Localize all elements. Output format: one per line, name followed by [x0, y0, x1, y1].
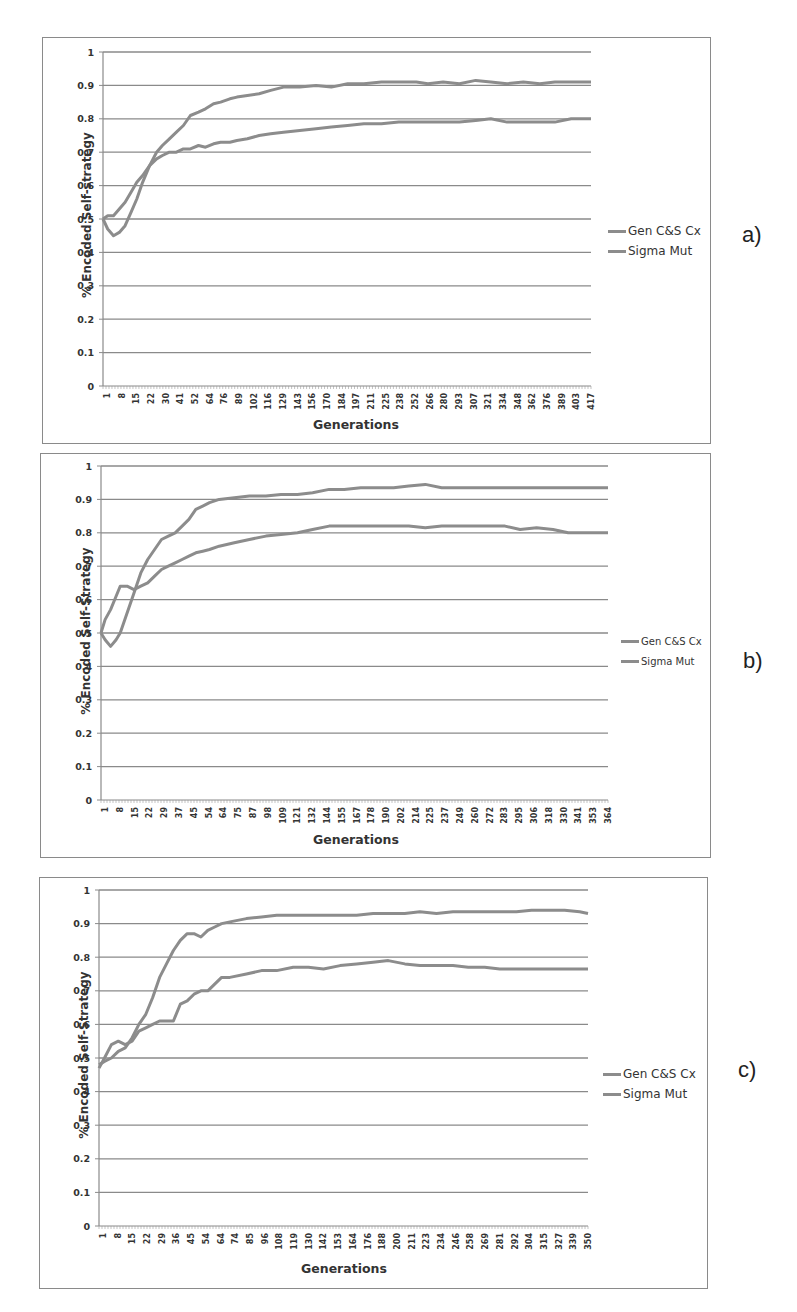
x-axis-label: Generations: [313, 417, 399, 432]
y-tick-label: 0: [85, 795, 92, 806]
chart-plot-b: 00.10.20.30.40.50.60.70.80.9118152229374…: [41, 454, 712, 859]
x-tick-label: 341: [574, 807, 583, 824]
legend-item-gen-cs-cx: Gen C&S Cx: [608, 221, 701, 241]
chart-panel-c: 00.10.20.30.40.50.60.70.80.9118152229364…: [39, 877, 708, 1289]
legend-item-sigma-mut: Sigma Mut: [603, 1084, 696, 1104]
x-tick-label: 89: [235, 393, 244, 405]
legend-item-gen-cs-cx: Gen C&S Cx: [621, 631, 702, 651]
x-tick-label: 280: [440, 393, 449, 410]
x-tick-label: 214: [412, 807, 421, 824]
x-tick-label: 96: [261, 1233, 270, 1245]
x-tick-label: 132: [308, 807, 317, 824]
x-tick-label: 293: [455, 393, 464, 410]
x-tick-label: 64: [206, 393, 215, 405]
x-tick-label: 142: [319, 1233, 328, 1250]
y-tick-label: 0.1: [73, 1187, 90, 1198]
x-tick-label: 30: [162, 393, 171, 405]
x-tick-label: 266: [426, 393, 435, 410]
x-tick-label: 156: [308, 393, 317, 410]
x-tick-label: 223: [422, 1233, 431, 1250]
legend-label: Gen C&S Cx: [641, 636, 702, 647]
x-tick-label: 200: [393, 1233, 402, 1250]
x-tick-label: 64: [219, 807, 228, 819]
legend-swatch: [608, 250, 626, 253]
x-tick-label: 1: [103, 393, 112, 399]
x-tick-label: 238: [396, 393, 405, 410]
x-tick-label: 29: [160, 807, 169, 819]
legend-label: Sigma Mut: [623, 1087, 687, 1101]
legend-label: Sigma Mut: [641, 656, 694, 667]
x-tick-label: 272: [486, 807, 495, 824]
legend-label: Gen C&S Cx: [628, 224, 701, 238]
x-tick-label: 85: [246, 1233, 255, 1245]
x-tick-label: 87: [249, 807, 258, 818]
x-tick-label: 321: [484, 393, 493, 410]
x-tick-label: 164: [349, 1233, 358, 1250]
legend-swatch: [621, 660, 639, 663]
x-tick-label: 76: [220, 393, 229, 405]
x-tick-label: 327: [555, 1233, 564, 1250]
x-tick-label: 252: [411, 393, 420, 410]
x-tick-label: 202: [397, 807, 406, 824]
x-tick-label: 353: [589, 807, 598, 824]
y-axis-label: % Encoded Self-strategy: [80, 115, 94, 315]
x-tick-label: 143: [294, 393, 303, 410]
legend: Gen C&S Cx Sigma Mut: [603, 1064, 696, 1104]
y-tick-label: 1: [87, 47, 94, 58]
x-tick-label: 283: [500, 807, 509, 824]
legend-swatch: [621, 640, 639, 643]
x-tick-label: 178: [367, 807, 376, 824]
x-tick-label: 364: [604, 807, 613, 824]
x-tick-label: 8: [118, 393, 127, 399]
x-tick-label: 52: [191, 393, 200, 404]
x-tick-label: 249: [456, 807, 465, 824]
x-tick-label: 153: [334, 1233, 343, 1250]
legend: Gen C&S Cx Sigma Mut: [608, 221, 701, 261]
x-tick-label: 167: [353, 807, 362, 824]
x-tick-label: 1: [99, 1233, 108, 1239]
x-tick-label: 8: [114, 1233, 123, 1239]
y-tick-label: 1: [85, 461, 92, 472]
x-tick-label: 330: [560, 807, 569, 824]
x-tick-label: 15: [128, 1233, 137, 1245]
x-tick-label: 22: [143, 1233, 152, 1244]
x-tick-label: 119: [290, 1233, 299, 1250]
x-tick-label: 350: [584, 1233, 593, 1250]
chart-panel-a: 00.10.20.30.40.50.60.70.80.9118152230415…: [42, 37, 711, 444]
x-tick-label: 339: [569, 1233, 578, 1250]
x-tick-label: 417: [587, 393, 596, 410]
x-tick-label: 258: [466, 1233, 475, 1250]
x-tick-label: 389: [558, 393, 567, 410]
x-tick-label: 170: [323, 393, 332, 410]
x-tick-label: 237: [441, 807, 450, 824]
y-tick-label: 1: [83, 885, 90, 896]
x-tick-label: 54: [202, 1233, 211, 1245]
x-tick-label: 8: [116, 807, 125, 813]
x-tick-label: 269: [481, 1233, 490, 1250]
x-tick-label: 64: [217, 1233, 226, 1245]
x-tick-label: 281: [496, 1233, 505, 1250]
x-tick-label: 144: [323, 807, 332, 824]
y-axis-label: % Encoded Self-Strategy: [77, 955, 91, 1155]
x-tick-label: 225: [426, 807, 435, 824]
x-tick-label: 75: [234, 807, 243, 819]
x-tick-label: 29: [158, 1233, 167, 1245]
x-tick-label: 315: [540, 1233, 549, 1250]
x-tick-label: 292: [511, 1233, 520, 1250]
panel-label-c: c): [738, 1057, 756, 1083]
x-tick-label: 155: [338, 807, 347, 824]
legend-item-gen-cs-cx: Gen C&S Cx: [603, 1064, 696, 1084]
x-tick-label: 109: [279, 807, 288, 824]
x-tick-label: 74: [231, 1233, 240, 1245]
x-tick-label: 45: [190, 807, 199, 819]
x-tick-label: 225: [382, 393, 391, 410]
x-tick-label: 334: [499, 393, 508, 410]
x-tick-label: 184: [338, 393, 347, 410]
x-tick-label: 190: [382, 807, 391, 824]
x-tick-label: 1: [101, 807, 110, 813]
x-tick-label: 234: [437, 1233, 446, 1250]
legend-item-sigma-mut: Sigma Mut: [608, 241, 701, 261]
x-tick-label: 188: [378, 1233, 387, 1250]
x-tick-label: 260: [471, 807, 480, 824]
panel-label-a: a): [742, 222, 762, 248]
